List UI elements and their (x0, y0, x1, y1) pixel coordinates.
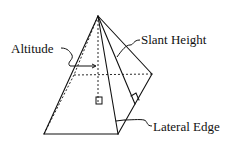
slant-height-line (98, 16, 135, 104)
base-left-hidden-edge (44, 75, 74, 134)
lateral-edge-tick (116, 120, 124, 121)
base-back-edge (74, 74, 152, 75)
lateral-edge-leader (124, 120, 152, 126)
label-lateral-edge: Lateral Edge (153, 120, 220, 133)
label-slant-height: Slant Height (141, 33, 206, 46)
pyramid-diagram: Altitude Slant Height Lateral Edge (0, 0, 235, 146)
altitude-leader (61, 48, 95, 66)
label-altitude: Altitude (11, 42, 54, 55)
right-angle-mark-altitude (96, 97, 102, 104)
lateral-edge-left (44, 16, 98, 134)
